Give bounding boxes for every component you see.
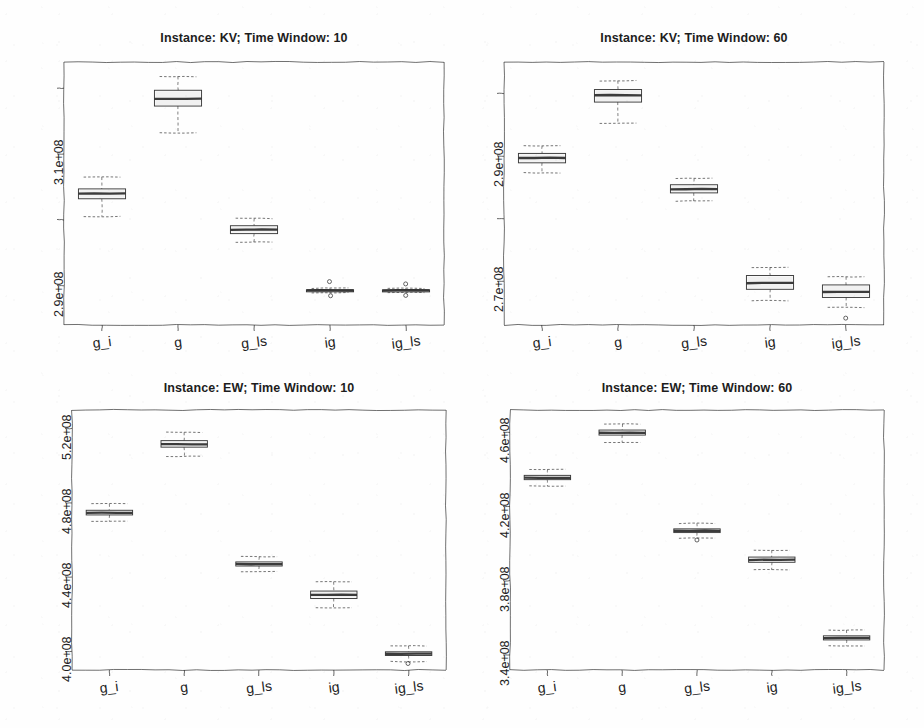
boxplot-panel-3: Instance: EW; Time Window: 60g_igg_lsigi… [0,0,924,728]
box-ig-panel3 [749,550,795,570]
box-g-panel3 [599,424,645,443]
y-tick-label-3-3: 3.4e+08 [498,641,512,687]
x-axis-ticks-3 [547,670,847,676]
y-tick-label-3-1: 4.2e+08 [498,492,512,538]
plot-frame-3 [510,410,885,671]
y-tick-label-3-0: 4.6e+08 [498,418,512,464]
box-g_i-panel3 [524,469,570,486]
box-ig_ls-panel3 [823,630,869,646]
plot-canvas-3 [0,0,924,728]
y-axis-ticks-3 [503,432,510,655]
y-tick-label-3-2: 3.8e+08 [498,566,512,612]
box-g_ls-panel3 [674,523,720,542]
boxplot-figure-grid: Instance: KV; Time Window: 10g_igg_lsigi… [0,0,924,728]
